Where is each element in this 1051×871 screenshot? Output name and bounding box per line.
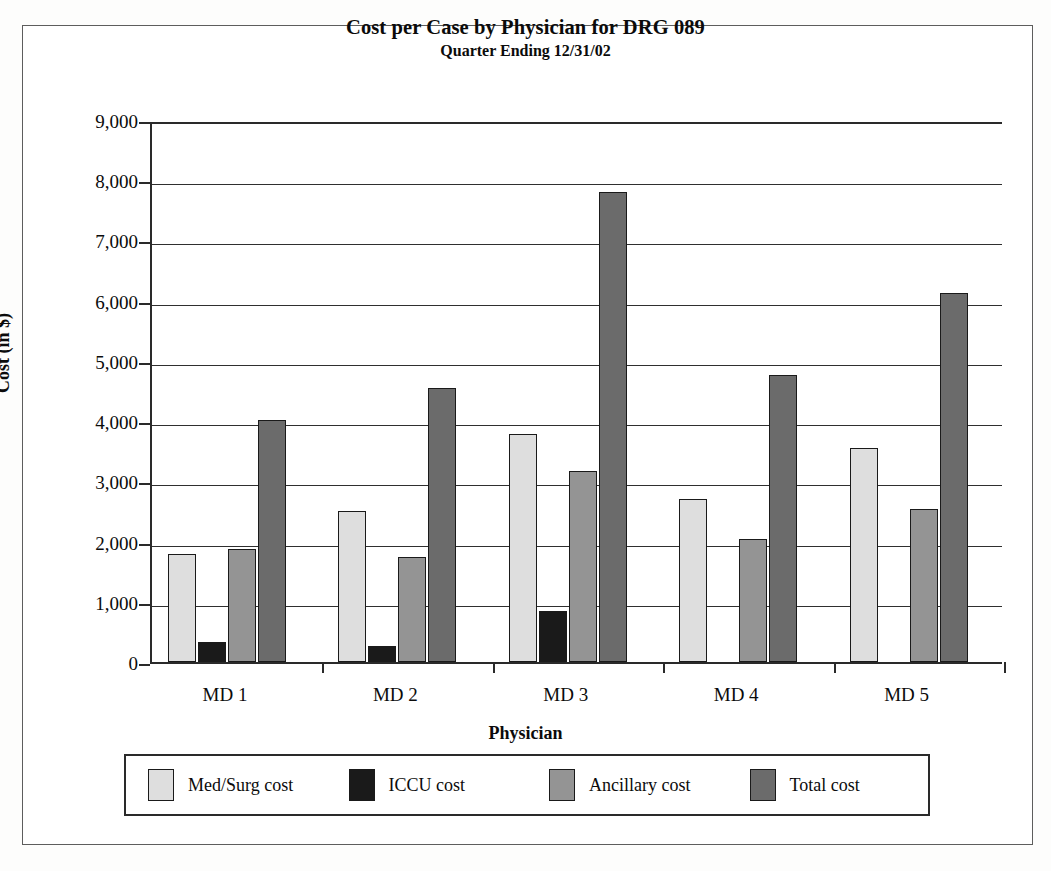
bar-group — [834, 124, 1004, 662]
x-axis-tick-mark — [663, 662, 665, 673]
legend-label: Med/Surg cost — [188, 775, 293, 796]
x-axis-tick-label: MD 5 — [884, 684, 929, 706]
bar — [940, 293, 968, 662]
bar — [569, 471, 597, 662]
y-axis-tick-mark — [139, 182, 150, 184]
x-axis-title: Physician — [0, 723, 1051, 744]
title-block: Cost per Case by Physician for DRG 089 Q… — [0, 16, 1051, 60]
x-axis-tick-label: MD 3 — [543, 684, 588, 706]
bar — [258, 420, 286, 662]
y-axis-tick-label: 2,000 — [55, 533, 138, 555]
y-axis-tick-mark — [139, 544, 150, 546]
chart-page: Cost per Case by Physician for DRG 089 Q… — [0, 0, 1051, 871]
bar — [198, 642, 226, 662]
legend-item: Ancillary cost — [527, 769, 728, 801]
legend-swatch-icon — [148, 769, 174, 801]
chart-title: Cost per Case by Physician for DRG 089 — [0, 16, 1051, 40]
bar — [368, 646, 396, 662]
y-axis-tick-label: 0 — [55, 653, 138, 675]
bar — [338, 511, 366, 662]
legend-item: Total cost — [728, 769, 929, 801]
y-axis-tick-label: 8,000 — [55, 171, 138, 193]
bar — [509, 434, 537, 662]
legend-label: Total cost — [790, 775, 860, 796]
chart-legend: Med/Surg costICCU costAncillary costTota… — [124, 754, 930, 816]
y-axis-tick-label: 6,000 — [55, 292, 138, 314]
bar — [539, 611, 567, 662]
bar — [398, 557, 426, 662]
plot-area — [150, 122, 1002, 664]
y-axis-tick-label: 9,000 — [55, 111, 138, 133]
legend-swatch-icon — [549, 769, 575, 801]
x-axis-tick-mark — [322, 662, 324, 673]
y-axis-tick-mark — [139, 483, 150, 485]
bar — [739, 539, 767, 662]
legend-label: ICCU cost — [389, 775, 466, 796]
x-axis-tick-label: MD 2 — [373, 684, 418, 706]
x-axis-tick-label: MD 1 — [203, 684, 248, 706]
bar-group — [152, 124, 322, 662]
bar — [850, 448, 878, 662]
bar — [910, 509, 938, 662]
x-axis-tick-mark — [834, 662, 836, 673]
legend-swatch-icon — [750, 769, 776, 801]
y-axis-tick-mark — [139, 664, 150, 666]
y-axis-tick-label: 7,000 — [55, 231, 138, 253]
chart-subtitle: Quarter Ending 12/31/02 — [0, 42, 1051, 60]
x-axis-tick-mark — [493, 662, 495, 673]
y-axis-tick-mark — [139, 303, 150, 305]
y-axis-tick-label: 1,000 — [55, 593, 138, 615]
bar-group — [663, 124, 833, 662]
bar — [599, 192, 627, 662]
y-axis-tick-mark — [139, 242, 150, 244]
legend-swatch-icon — [349, 769, 375, 801]
bar-group — [322, 124, 492, 662]
y-axis-title: Cost (in $) — [0, 313, 14, 393]
y-axis-tick-label: 4,000 — [55, 412, 138, 434]
y-axis-tick-mark — [139, 423, 150, 425]
bar — [168, 554, 196, 662]
y-axis-tick-mark — [139, 122, 150, 124]
bar-group — [493, 124, 663, 662]
y-axis-tick-label: 5,000 — [55, 352, 138, 374]
bar — [428, 388, 456, 662]
bar — [679, 499, 707, 662]
legend-label: Ancillary cost — [589, 775, 690, 796]
x-axis-tick-label: MD 4 — [714, 684, 759, 706]
legend-item: Med/Surg cost — [126, 769, 327, 801]
y-axis-tick-label: 3,000 — [55, 472, 138, 494]
bar — [228, 549, 256, 662]
y-axis-tick-mark — [139, 363, 150, 365]
x-axis-tick-mark — [1004, 662, 1006, 673]
y-axis-tick-mark — [139, 604, 150, 606]
legend-item: ICCU cost — [327, 769, 528, 801]
bar — [769, 375, 797, 662]
